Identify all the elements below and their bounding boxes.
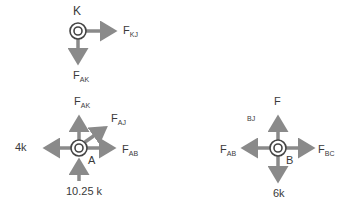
diagram-canvas <box>0 0 344 216</box>
arrow-f-aj <box>85 128 105 142</box>
label-6k: 6k <box>273 188 285 199</box>
joint-a <box>46 118 113 181</box>
label-4k: 4k <box>15 142 27 153</box>
label-f-ab-a: FAB <box>122 144 138 157</box>
label-f-bc: FBC <box>318 144 334 157</box>
label-f-bj-sub: BJ <box>247 115 255 122</box>
joint-a-label: A <box>88 155 95 166</box>
joint-b <box>244 118 312 180</box>
joint-a-pin <box>75 144 83 152</box>
joint-b-label: B <box>286 155 293 166</box>
joint-k-label: K <box>73 5 81 17</box>
label-f-kj: FKJ <box>123 25 138 38</box>
label-f-aj: FAJ <box>111 113 126 126</box>
joint-b-pin <box>274 144 282 152</box>
label-reaction: 10.25 k <box>66 186 102 197</box>
label-f-ak-k: FAK <box>73 70 89 83</box>
joint-k-pin <box>74 27 82 35</box>
joint-k <box>70 23 114 62</box>
label-f-bj-main: F <box>274 96 281 107</box>
label-f-ak-a: FAK <box>74 96 90 109</box>
label-f-ab-b: FAB <box>220 144 236 157</box>
